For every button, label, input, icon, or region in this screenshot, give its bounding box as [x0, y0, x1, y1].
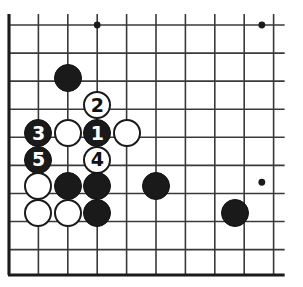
- stone-white: [24, 172, 52, 200]
- stone-black: [54, 172, 82, 200]
- stone-black: [83, 172, 111, 200]
- stone-move-number: 1: [91, 123, 104, 142]
- stone-move-number: 3: [32, 123, 45, 142]
- stone-white: [24, 199, 52, 227]
- stone-white: [54, 119, 82, 147]
- stone-move-number: 5: [32, 150, 45, 169]
- stone-black: [54, 64, 82, 92]
- stone-white: [113, 119, 141, 147]
- stone-white-move-4: 4: [83, 146, 111, 174]
- stone-black-move-5: 5: [24, 146, 52, 174]
- stone-black: [142, 172, 170, 200]
- stone-black: [83, 199, 111, 227]
- stone-move-number: 4: [91, 150, 104, 169]
- stone-black-move-3: 3: [24, 119, 52, 147]
- stone-white: [54, 199, 82, 227]
- stone-layer: 23154: [0, 0, 303, 287]
- stone-black: [221, 199, 249, 227]
- stone-move-number: 2: [91, 95, 104, 114]
- go-board-diagram: 23154: [0, 0, 303, 287]
- stone-white-move-2: 2: [83, 91, 111, 119]
- stone-black-move-1: 1: [83, 119, 111, 147]
